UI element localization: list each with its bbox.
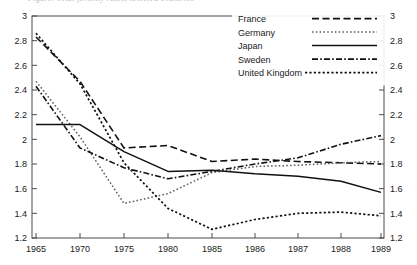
y-tick-label-right: 2.6 [390,61,403,71]
series-line-japan [36,125,381,193]
legend-label-germany[interactable]: Germany [238,28,276,38]
y-tick-label-right: 2.4 [390,85,403,95]
chart-canvas: 1.21.41.61.822.22.42.62.83 1.21.41.61.82… [0,0,417,265]
x-tick-label: 1989 [371,244,391,254]
x-tick-label: 1980 [158,244,178,254]
y-tick-label-right: 2.2 [390,110,403,120]
y-tick-label-right: 1.6 [390,184,403,194]
x-tick-label: 1987 [288,244,308,254]
x-tick-label: 1970 [70,244,90,254]
y-tick-label-left: 2.2 [14,110,27,120]
y-tick-label-right: 1.2 [390,233,403,243]
y-tick-label-left: 2 [22,135,27,145]
legend-label-france[interactable]: France [238,14,266,24]
y-tick-label-left: 1.4 [14,209,27,219]
x-tick-label: 1975 [114,244,134,254]
x-tick-label: 1965 [26,244,46,254]
series-line-sweden [36,86,381,179]
x-tick-label: 1986 [245,244,265,254]
y-tick-label-left: 3 [22,11,27,21]
chart-legend[interactable]: FranceGermanyJapanSwedenUnited Kingdom [232,12,385,86]
y-tick-label-right: 2.8 [390,36,403,46]
y-tick-label-left: 2.8 [14,36,27,46]
y-tick-label-left: 2.4 [14,85,27,95]
y-tick-label-right: 1.8 [390,159,403,169]
fertility-rate-line-chart: Figure. Total fertility rates, selected … [0,0,417,265]
y-tick-label-left: 1.6 [14,184,27,194]
legend-label-japan[interactable]: Japan [238,41,263,51]
y-tick-label-left: 2.6 [14,61,27,71]
legend-label-united-kingdom[interactable]: United Kingdom [238,68,302,78]
y-tick-label-left: 1.2 [14,233,27,243]
y-tick-label-right: 1.4 [390,209,403,219]
y-tick-label-right: 3 [390,11,395,21]
legend-label-sweden[interactable]: Sweden [238,55,271,65]
x-axis: 196519701975198019851986198719881989 [26,233,391,254]
x-tick-label: 1985 [202,244,222,254]
y-tick-label-left: 1.8 [14,159,27,169]
series-line-germany [36,81,381,203]
x-tick-label: 1988 [331,244,351,254]
y-axis-left: 1.21.41.61.822.22.42.62.83 [14,11,37,243]
y-tick-label-right: 2 [390,135,395,145]
